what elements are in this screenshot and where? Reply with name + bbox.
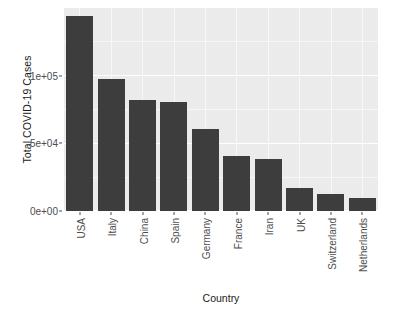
x-tick-mark [330, 212, 331, 215]
x-tick-label-china: China [139, 218, 150, 244]
gridline-vertical-minor [362, 8, 363, 211]
bar-switzerland [317, 194, 344, 211]
x-tick-mark [142, 212, 143, 215]
y-tick-mark [59, 75, 62, 76]
x-tick-mark [173, 212, 174, 215]
x-axis-title: Country [64, 292, 378, 304]
bar-spain [160, 102, 187, 211]
x-tick-label-france: France [233, 218, 244, 249]
bar-usa [66, 16, 93, 211]
y-tick-mark [59, 211, 62, 212]
x-tick-label-usa: USA [76, 218, 87, 239]
x-tick-mark [362, 212, 363, 215]
bar-chart: Total COVID-19 Cases 0e+005e+041e+05 USA… [0, 0, 414, 319]
bar-italy [98, 79, 125, 211]
gridline-vertical-minor [299, 8, 300, 211]
x-tick-label-uk: UK [296, 218, 307, 232]
bar-germany [192, 129, 219, 211]
x-tick-label-switzerland: Switzerland [327, 218, 338, 270]
bar-uk [286, 188, 313, 211]
gridline-vertical-minor [331, 8, 332, 211]
x-tick-label-germany: Germany [201, 218, 212, 259]
plot-panel [64, 8, 378, 211]
bar-iran [255, 159, 282, 211]
x-tick-mark [205, 212, 206, 215]
x-tick-mark [79, 212, 80, 215]
x-tick-mark [268, 212, 269, 215]
x-tick-label-netherlands: Netherlands [358, 218, 369, 272]
x-tick-label-italy: Italy [107, 218, 118, 236]
bar-netherlands [349, 198, 376, 211]
y-tick-label-1e+05: 1e+05 [14, 70, 58, 81]
bar-france [223, 156, 250, 211]
y-tick-label-0e+00: 0e+00 [14, 206, 58, 217]
x-tick-mark [111, 212, 112, 215]
x-tick-label-spain: Spain [170, 218, 181, 244]
y-axis-tick-labels: 0e+005e+041e+05 [10, 0, 58, 319]
x-tick-mark [236, 212, 237, 215]
bar-china [129, 100, 156, 211]
y-tick-label-5e+04: 5e+04 [14, 138, 58, 149]
y-tick-mark [59, 143, 62, 144]
x-tick-mark [299, 212, 300, 215]
x-tick-label-iran: Iran [264, 218, 275, 235]
